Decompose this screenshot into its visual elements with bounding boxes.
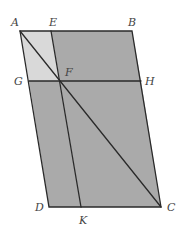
label-h: H xyxy=(144,75,155,88)
label-f: F xyxy=(64,66,73,79)
label-g: G xyxy=(14,75,23,88)
label-b: B xyxy=(127,16,136,29)
label-d: D xyxy=(34,201,44,214)
label-e: E xyxy=(48,16,57,29)
geometry-diagram: A E B G F H D K C xyxy=(0,0,186,235)
label-a: A xyxy=(10,16,19,29)
label-c: C xyxy=(167,201,176,214)
label-k: K xyxy=(78,214,88,227)
